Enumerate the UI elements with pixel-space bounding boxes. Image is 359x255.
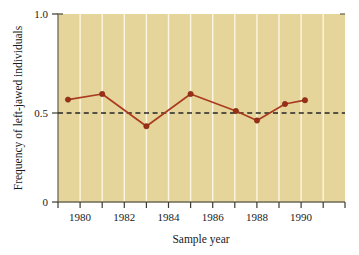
data-point	[65, 97, 70, 102]
data-point	[254, 118, 259, 123]
x-tick-label-1990: 1990	[290, 211, 313, 223]
data-point	[282, 101, 287, 106]
x-tick-label-1988: 1988	[246, 211, 269, 223]
x-tick-label-1980: 1980	[69, 211, 92, 223]
data-point	[144, 124, 149, 129]
x-tick-label-1982: 1982	[113, 211, 135, 223]
y-tick-label-1: 1.0	[34, 8, 48, 20]
y-tick-label-0: 0	[43, 196, 49, 208]
data-point	[100, 91, 105, 96]
y-tick-label-0point5: 0.5	[34, 107, 48, 119]
x-tick-label-1984: 1984	[158, 211, 181, 223]
x-tick-label-1986: 1986	[202, 211, 225, 223]
x-axis-title: Sample year	[172, 233, 229, 246]
y-axis-title: Frequency of left-jawed individuals	[12, 25, 25, 190]
data-point	[188, 91, 193, 96]
plot-area-background	[58, 14, 345, 202]
data-point	[233, 108, 238, 113]
chart-figure: 1.0 0.5 0 1980 1982 1984 1986 1988 1990 …	[0, 0, 359, 255]
line-chart-svg: 1.0 0.5 0 1980 1982 1984 1986 1988 1990 …	[0, 0, 359, 255]
data-point	[302, 98, 307, 103]
